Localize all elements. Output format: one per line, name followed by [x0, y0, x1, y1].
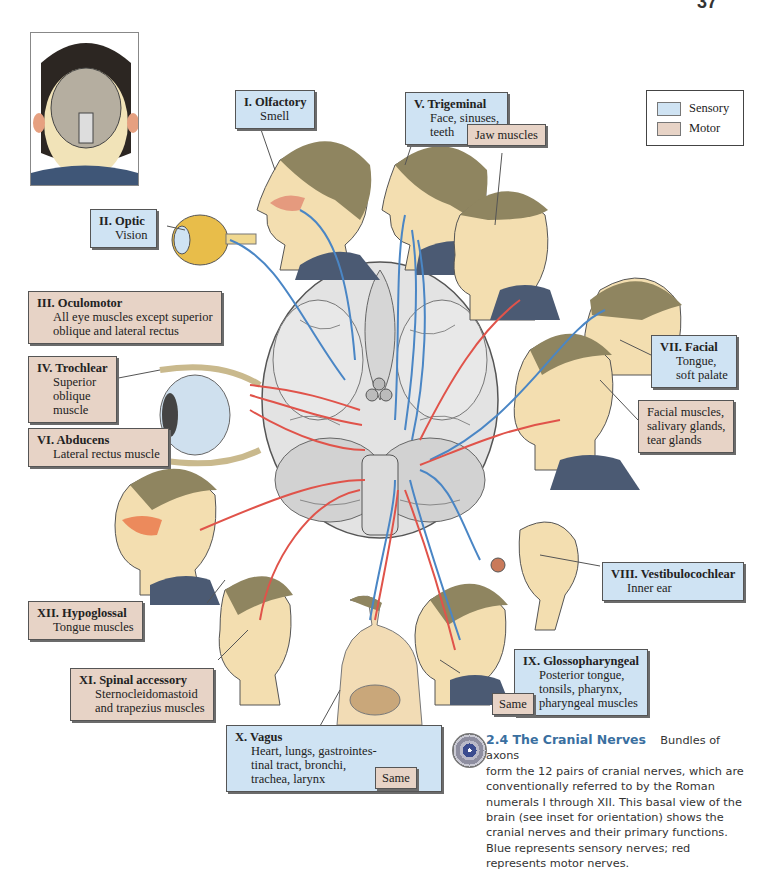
label-optic: II. Optic Vision	[90, 209, 157, 248]
olfactory-function: Smell	[244, 109, 306, 123]
glossopharyngeal-function-2: tonsils, pharynx,	[523, 682, 639, 696]
oculomotor-function-2: oblique and lateral rectus	[37, 324, 213, 338]
optic-function: Vision	[99, 228, 148, 242]
label-trigeminal-motor: Jaw muscles	[467, 124, 546, 146]
head-spinal-accessory	[219, 576, 293, 705]
trochlear-function-2: oblique	[37, 389, 108, 403]
trochlear-function-3: muscle	[37, 403, 108, 417]
label-glossopharyngeal-motor: Same	[492, 693, 534, 715]
facial-function-2: soft palate	[660, 368, 728, 382]
caption-title: 2.4 The Cranial Nerves	[486, 732, 646, 747]
hypoglossal-function: Tongue muscles	[37, 620, 134, 634]
vestibulocochlear-title: VIII. Vestibulocochlear	[611, 567, 735, 581]
glossopharyngeal-function-3: pharyngeal muscles	[523, 696, 639, 710]
hypoglossal-title: XII. Hypoglossal	[37, 606, 134, 620]
vagus-title: X. Vagus	[235, 730, 433, 744]
spinal-accessory-function-1: Sternocleidomastoid	[79, 687, 205, 701]
trigeminal-function-1: Face, sinuses,	[414, 111, 499, 125]
label-trochlear: IV. Trochlear Superior oblique muscle	[28, 356, 117, 423]
motor-swatch	[657, 122, 681, 136]
glossopharyngeal-function-1: Posterior tongue,	[523, 668, 639, 682]
label-glossopharyngeal: IX. Glossopharyngeal Posterior tongue, t…	[514, 649, 648, 716]
head-glossopharyngeal	[415, 584, 510, 705]
facial-title: VII. Facial	[660, 340, 728, 354]
torso-vagus	[337, 596, 422, 725]
label-facial-motor: Facial muscles, salivary glands, tear gl…	[638, 400, 734, 453]
label-abducens: VI. Abducens Lateral rectus muscle	[28, 428, 169, 467]
legend: Sensory Motor	[646, 90, 744, 146]
legend-item-sensory: Sensory	[657, 101, 729, 116]
eye-optic	[172, 215, 256, 265]
sensory-swatch	[657, 102, 681, 116]
figure-caption: 2.4 The Cranial Nerves Bundles of axons …	[486, 732, 744, 872]
abducens-title: VI. Abducens	[37, 433, 160, 447]
head-olfactory	[257, 141, 380, 280]
facial-motor-3: tear glands	[647, 433, 725, 447]
head-jaw-muscles	[454, 191, 560, 320]
label-vagus-motor: Same	[375, 767, 417, 789]
oculomotor-function-1: All eye muscles except superior	[37, 310, 213, 324]
spinal-accessory-function-2: and trapezius muscles	[79, 701, 205, 715]
glossopharyngeal-motor-function: Same	[499, 697, 527, 711]
glossopharyngeal-title: IX. Glossopharyngeal	[523, 654, 639, 668]
orientation-inset	[30, 32, 139, 186]
label-oculomotor: III. Oculomotor All eye muscles except s…	[28, 291, 222, 344]
spinal-accessory-title: XI. Spinal accessory	[79, 673, 205, 687]
caption-text: form the 12 pairs of cranial nerves, whi…	[486, 764, 744, 872]
olfactory-title: I. Olfactory	[244, 95, 306, 109]
label-olfactory: I. Olfactory Smell	[235, 90, 315, 129]
optic-title: II. Optic	[99, 214, 148, 228]
label-vestibulocochlear: VIII. Vestibulocochlear Inner ear	[602, 562, 744, 601]
trigeminal-title: V. Trigeminal	[414, 97, 499, 111]
label-facial: VII. Facial Tongue, soft palate	[651, 335, 737, 388]
abducens-function: Lateral rectus muscle	[37, 447, 160, 461]
trigeminal-motor-function: Jaw muscles	[475, 128, 538, 142]
cd-rom-icon	[452, 733, 487, 768]
facial-motor-1: Facial muscles,	[647, 405, 725, 419]
facial-motor-2: salivary glands,	[647, 419, 725, 433]
vagus-function-1: Heart, lungs, gastrointes-	[235, 744, 433, 758]
legend-label-motor: Motor	[689, 121, 720, 136]
brain-basal-view	[262, 262, 498, 538]
legend-item-motor: Motor	[657, 121, 720, 136]
head-hypoglossal	[115, 469, 220, 605]
trochlear-title: IV. Trochlear	[37, 361, 108, 375]
legend-label-sensory: Sensory	[689, 101, 729, 116]
vagus-motor-function: Same	[382, 771, 410, 785]
eye-muscles	[160, 367, 260, 463]
oculomotor-title: III. Oculomotor	[37, 296, 213, 310]
label-hypoglossal: XII. Hypoglossal Tongue muscles	[28, 601, 143, 640]
facial-function-1: Tongue,	[660, 354, 728, 368]
inverted-head-icon	[31, 33, 138, 185]
trochlear-function-1: Superior	[37, 375, 108, 389]
vestibulocochlear-function: Inner ear	[611, 581, 735, 595]
label-spinal-accessory: XI. Spinal accessory Sternocleidomastoid…	[70, 668, 214, 721]
